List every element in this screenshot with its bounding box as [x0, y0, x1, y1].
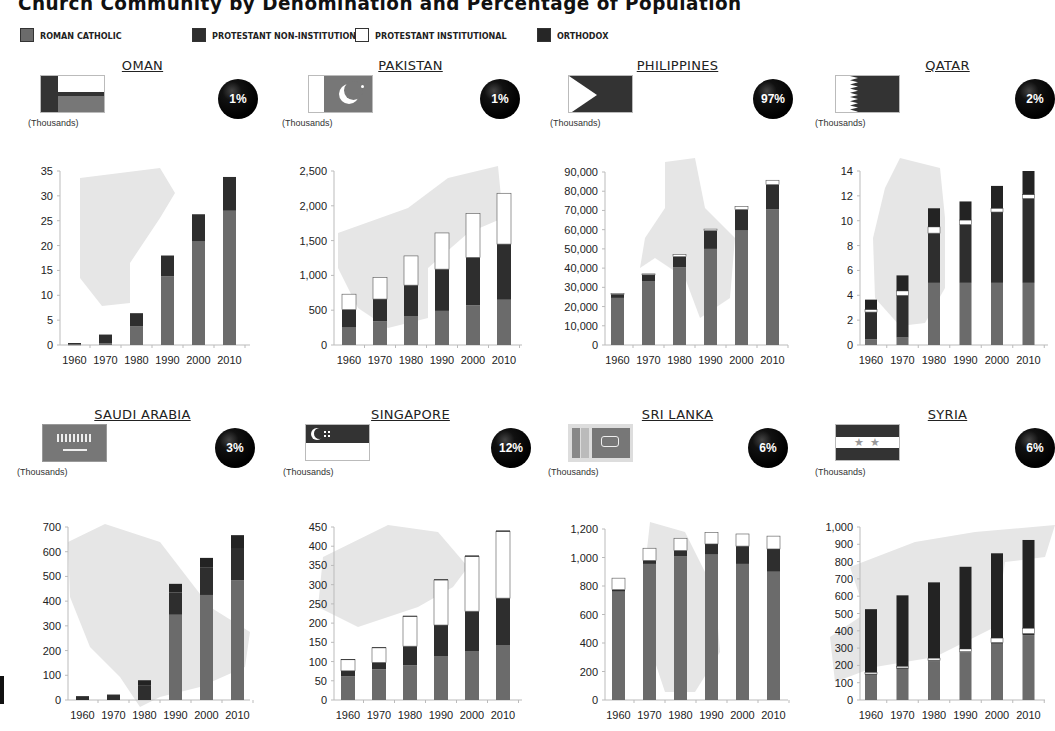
bar-segment-protestant-non-institutional	[496, 598, 510, 645]
y-tick-label: 100	[309, 656, 327, 668]
x-tick-label: 1980	[667, 354, 691, 366]
bar-segment-protestant-institutional	[496, 532, 510, 599]
bar-1980	[403, 616, 417, 700]
bar-segment-protestant-institutional	[865, 310, 877, 312]
bar-segment-protestant-institutional	[373, 277, 387, 299]
chart-philippines: 010,00020,00030,00040,00050,00060,00070,…	[545, 58, 810, 398]
y-tick-label: 8	[847, 240, 853, 252]
bar-1980	[928, 582, 940, 700]
bar-1960	[341, 659, 355, 700]
bar-1960	[611, 293, 624, 345]
x-tick-label: 2010	[761, 709, 785, 721]
x-tick-label: 2010	[492, 354, 516, 366]
legend-swatch-protestant-non-institutional	[192, 28, 206, 42]
x-tick-label: 1980	[399, 354, 423, 366]
bar-segment-roman-catholic	[1023, 283, 1035, 345]
bar-segment-protestant-institutional	[341, 660, 355, 671]
bar-1960	[612, 578, 625, 700]
bar-1990	[161, 256, 174, 345]
bar-segment-roman-catholic	[466, 305, 480, 345]
bar-1970	[897, 275, 909, 345]
bar-segment-orthodox	[341, 659, 355, 660]
y-tick-label: 50	[315, 675, 327, 687]
x-tick-label: 2000	[194, 709, 218, 721]
x-tick-label: 1990	[698, 354, 722, 366]
x-tick-label: 1960	[605, 354, 629, 366]
legend-label: PROTESTANT INSTITUTIONAL	[375, 30, 507, 41]
bar-segment-protestant-non-institutional	[435, 269, 449, 311]
y-tick-label: 0	[321, 339, 327, 351]
y-tick-label: 400	[309, 540, 327, 552]
bar-segment-protestant-non-institutional	[192, 214, 205, 241]
y-tick-label: 15	[41, 264, 53, 276]
x-tick-label: 2000	[729, 354, 753, 366]
bar-2000	[192, 214, 205, 345]
bar-segment-protestant-institutional	[611, 293, 624, 294]
bar-segment-orthodox	[897, 595, 909, 666]
y-tick-label: 90,000	[564, 166, 598, 178]
bar-segment-orthodox	[465, 555, 479, 556]
x-tick-label: 1970	[890, 354, 914, 366]
legend-swatch-roman-catholic	[20, 28, 34, 42]
y-tick-label: 900	[835, 538, 853, 550]
bar-segment-orthodox	[434, 579, 448, 580]
bar-segment-orthodox	[231, 535, 244, 548]
bar-segment-protestant-institutional	[372, 648, 386, 663]
y-tick-label: 2,500	[299, 165, 327, 177]
bar-segment-protestant-institutional	[897, 666, 909, 668]
x-tick-label: 2000	[985, 709, 1009, 721]
bar-2010	[1023, 540, 1035, 700]
y-tick-label: 70,000	[564, 204, 598, 216]
bar-segment-orthodox	[169, 584, 182, 593]
y-tick-label: 40,000	[564, 262, 598, 274]
bar-segment-roman-catholic	[928, 661, 940, 700]
panel-qatar: QATAR (Thousands) 2% 0246810121419601970…	[805, 58, 1055, 398]
y-tick-label: 0	[847, 339, 853, 351]
bar-segment-protestant-non-institutional	[643, 560, 656, 564]
y-tick-label: 10	[41, 289, 53, 301]
bar-segment-protestant-institutional	[643, 548, 656, 560]
y-tick-label: 0	[55, 694, 61, 706]
bar-segment-protestant-institutional	[735, 206, 748, 209]
bar-segment-protestant-non-institutional	[372, 662, 386, 669]
bar-segment-protestant-non-institutional	[68, 343, 81, 344]
y-tick-label: 0	[847, 694, 853, 706]
x-tick-label: 2000	[460, 709, 484, 721]
bar-segment-roman-catholic	[960, 652, 972, 700]
bar-segment-protestant-non-institutional	[107, 695, 120, 700]
bar-segment-roman-catholic	[865, 675, 877, 700]
bar-1960	[76, 696, 89, 700]
panel-oman: OMAN (Thousands) 1% 05101520253035196019…	[10, 58, 275, 398]
bar-segment-orthodox	[496, 530, 510, 531]
y-tick-label: 4	[847, 289, 853, 301]
y-tick-label: 30,000	[564, 281, 598, 293]
x-tick-label: 2000	[730, 709, 754, 721]
x-tick-label: 1990	[163, 709, 187, 721]
bar-segment-protestant-institutional	[673, 255, 686, 257]
x-tick-label: 1980	[922, 354, 946, 366]
bar-segment-orthodox	[138, 680, 151, 685]
bar-segment-roman-catholic	[169, 615, 182, 700]
y-tick-label: 300	[309, 579, 327, 591]
y-tick-label: 350	[309, 559, 327, 571]
edge-artifact	[0, 676, 4, 704]
y-tick-label: 500	[309, 304, 327, 316]
bar-segment-roman-catholic	[960, 283, 972, 345]
panel-philippines: PHILIPPINES (Thousands) 97% 010,00020,00…	[545, 58, 810, 398]
bar-1960	[342, 294, 356, 345]
bar-segment-roman-catholic	[991, 644, 1003, 700]
bar-segment-protestant-non-institutional	[705, 544, 718, 555]
bar-segment-protestant-institutional	[705, 533, 718, 544]
bar-segment-protestant-non-institutional	[130, 313, 143, 326]
bar-segment-protestant-non-institutional	[611, 294, 624, 298]
x-tick-label: 1990	[155, 354, 179, 366]
y-tick-label: 0	[47, 339, 53, 351]
y-tick-label: 2,000	[299, 200, 327, 212]
bar-segment-orthodox	[76, 696, 89, 697]
bar-segment-protestant-non-institutional	[766, 184, 779, 209]
bar-1970	[373, 277, 387, 345]
x-tick-label: 2010	[225, 709, 249, 721]
bar-1970	[642, 274, 655, 345]
bar-1990	[705, 533, 718, 700]
y-tick-label: 250	[309, 598, 327, 610]
